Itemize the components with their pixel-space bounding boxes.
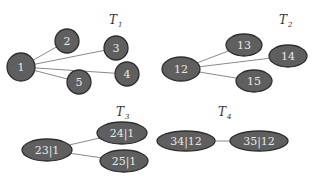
- node-label: 5: [76, 76, 83, 89]
- tree-title-t4: T4: [218, 105, 231, 121]
- node-label: 23|1: [35, 144, 60, 158]
- tree-node: 12: [162, 57, 200, 81]
- tree-title-subscript: 3: [125, 113, 130, 121]
- node-label: 3: [113, 42, 120, 55]
- tree-node: 25|1: [100, 150, 148, 172]
- tree-node: 23|1: [22, 139, 72, 161]
- nodes-layer: 123451213141523|124|125|134|1235|12: [7, 29, 307, 172]
- tree-title-subscript: 4: [226, 113, 231, 121]
- tree-title-t3: T3: [116, 105, 130, 121]
- tree-node: 5: [67, 70, 91, 94]
- tree-node: 2: [55, 29, 79, 53]
- node-label: 34|12: [170, 135, 202, 149]
- node-label: 14: [281, 50, 295, 63]
- tree-node: 15: [236, 70, 272, 92]
- tree-title-subscript: 2: [287, 21, 293, 29]
- node-label: 24|1: [110, 127, 135, 141]
- node-label: 15: [247, 75, 261, 88]
- tree-title-subscript: 1: [118, 21, 122, 29]
- tree-node: 13: [226, 34, 262, 56]
- node-label: 4: [124, 68, 131, 81]
- tree-node: 14: [269, 45, 307, 67]
- forest-diagram: 123451213141523|124|125|134|1235|12 T1T2…: [0, 0, 317, 184]
- node-label: 2: [64, 35, 71, 48]
- tree-node: 35|12: [230, 131, 288, 151]
- tree-node: 3: [104, 36, 128, 60]
- tree-node: 24|1: [97, 122, 147, 144]
- node-label: 12: [174, 63, 188, 76]
- node-label: 35|12: [243, 135, 275, 149]
- tree-node: 34|12: [157, 131, 215, 151]
- tree-node: 4: [115, 62, 139, 86]
- tree-title-t2: T2: [279, 13, 293, 29]
- node-label: 25|1: [112, 155, 137, 169]
- tree-node: 1: [7, 53, 35, 81]
- tree-title-t1: T1: [109, 13, 122, 29]
- node-label: 13: [237, 39, 251, 52]
- node-label: 1: [18, 61, 25, 74]
